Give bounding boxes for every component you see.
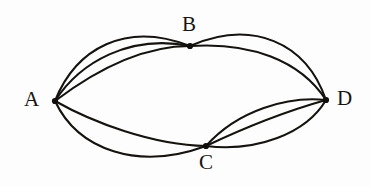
graph-edge-a-b bbox=[55, 46, 190, 101]
edge-layer bbox=[55, 35, 326, 157]
vertex-label-a: A bbox=[24, 89, 39, 110]
graph-edge-b-d bbox=[190, 45, 326, 100]
vertex-label-b: B bbox=[182, 14, 196, 35]
vertex-label-c: C bbox=[199, 152, 213, 173]
graph-vertex-d bbox=[323, 97, 329, 103]
graph-edge-a-b bbox=[55, 43, 190, 101]
graph-figure: ABCD bbox=[0, 0, 371, 186]
graph-edge-a-c bbox=[55, 101, 206, 157]
graph-edge-a-b bbox=[55, 37, 190, 101]
vertex-label-d: D bbox=[337, 88, 352, 109]
graph-vertex-a bbox=[52, 98, 58, 104]
graph-vertex-c bbox=[203, 143, 209, 149]
graph-edge-a-c bbox=[55, 101, 206, 146]
graph-vertex-b bbox=[187, 43, 193, 49]
